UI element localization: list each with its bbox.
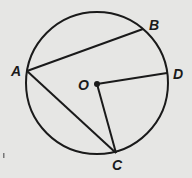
stray-mark (3, 153, 5, 158)
radius-oc (97, 84, 116, 153)
circle-diagram: A B C D O (0, 0, 192, 178)
center-point (94, 81, 100, 87)
radius-od (97, 73, 167, 84)
label-c: C (112, 157, 123, 173)
label-b: B (149, 17, 159, 33)
label-d: D (173, 66, 183, 82)
label-a: A (10, 63, 21, 79)
label-o: O (78, 77, 89, 93)
